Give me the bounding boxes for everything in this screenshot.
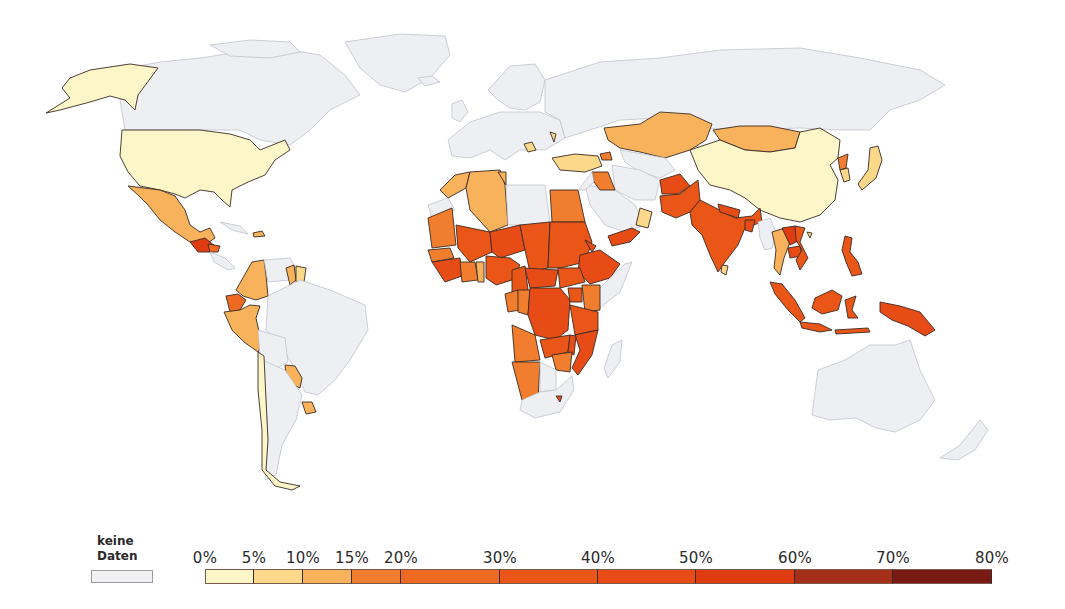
tick-10: 10% [286,549,320,567]
map-legend: keine Daten 0% 5% 10% 15% 20% 30% 40% 50… [0,520,1065,609]
tick-70: 70% [876,549,910,567]
region-new-zealand [940,420,988,460]
tick-60: 60% [778,549,812,567]
tick-40: 40% [581,549,615,567]
region-zimbabwe [552,352,572,372]
region-south-sudan [558,268,585,288]
region-caucasus [600,152,612,160]
world-map [0,0,1065,500]
region-south-korea [840,168,850,182]
region-colombia [236,260,268,300]
tick-0: 0% [193,549,217,567]
scale-bin-40-50 [598,569,696,584]
region-kenya [582,285,600,312]
region-iceland [418,76,440,86]
region-yemen [608,228,640,246]
region-sumatra [770,282,805,322]
scale-bin-30-40 [500,569,598,584]
region-uganda [568,288,582,302]
region-morocco [440,172,470,198]
region-australia [812,340,935,432]
region-turkey [552,154,602,172]
region-uk [452,100,468,122]
region-western-europe [448,112,565,160]
region-guyana [286,265,296,285]
tick-5: 5% [242,549,266,567]
region-russia [545,48,945,138]
region-oman [636,208,652,228]
scale-bin-15-20 [352,569,401,584]
scale-bin-20-30 [401,569,500,584]
region-egypt [550,190,585,222]
region-drc [528,288,570,340]
scale-bin-60-70 [795,569,893,584]
region-borneo [812,290,842,314]
region-java [800,322,832,332]
region-libya [506,185,550,225]
region-japan [858,146,882,190]
region-lesser-sunda [835,328,870,334]
region-north-korea [838,154,848,170]
scale-bin-70-80 [893,569,992,584]
region-central-america [210,252,235,270]
tick-50: 50% [679,549,713,567]
region-sri-lanka [721,265,728,275]
region-sulawesi [845,296,858,318]
region-madagascar [604,340,622,378]
region-guinea [432,258,462,282]
scale-bin-0-5 [205,569,254,584]
scale-bin-50-60 [696,569,795,584]
no-data-label-line1: keine [97,534,134,548]
tick-20: 20% [384,549,418,567]
no-data-label-line2: Daten [97,549,137,563]
tick-30: 30% [483,549,517,567]
region-bangladesh [745,220,755,232]
region-scandinavia [488,64,545,110]
region-mexico [128,186,215,245]
region-chad [520,222,550,272]
tick-80: 80% [975,549,1009,567]
region-caribbean [220,222,248,234]
scale-bin-5-10 [254,569,303,584]
region-papua [880,302,935,336]
region-uruguay [302,402,316,414]
no-data-swatch [91,570,153,583]
color-scale [205,569,992,584]
region-botswana [540,362,556,392]
region-peru [224,305,262,352]
tick-15: 15% [335,549,369,567]
region-philippines [842,236,862,276]
region-hainan [807,232,812,238]
region-suriname [296,266,306,282]
region-honduras [208,244,220,252]
scale-bin-10-15 [303,569,352,584]
region-ivory-coast [460,262,478,282]
region-car [525,268,558,288]
region-algeria [466,170,508,232]
region-haiti [253,231,265,237]
